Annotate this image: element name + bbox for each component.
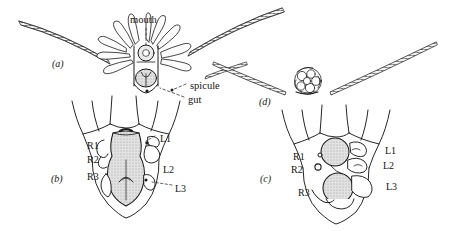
label-b-L1: L1 bbox=[160, 134, 171, 144]
panel-label-a: (a) bbox=[52, 59, 64, 69]
element-R1-c bbox=[318, 153, 322, 157]
element-L2-b bbox=[144, 146, 160, 164]
arch-b-left bbox=[83, 124, 110, 134]
outline-b-mid-right bbox=[136, 96, 139, 124]
retracted-cluster-d bbox=[295, 68, 322, 95]
outline-b-right-outer bbox=[159, 101, 180, 158]
leader-spicule bbox=[172, 84, 186, 90]
outline-b-right-inner bbox=[151, 101, 158, 131]
annotation-gut: gut bbox=[188, 95, 201, 106]
annotation-mouth: mouth bbox=[130, 15, 157, 26]
spicule-arm-left-d bbox=[213, 62, 286, 95]
label-b-R1: R1 bbox=[87, 141, 99, 151]
panel-label-b: (b) bbox=[51, 174, 63, 184]
element-R2-c bbox=[315, 164, 321, 170]
outline-c-left-inner bbox=[302, 110, 309, 140]
element-L2-c bbox=[348, 158, 367, 173]
outline-b-left-inner bbox=[92, 101, 99, 131]
label-b-L2: L2 bbox=[163, 165, 174, 175]
label-c-L1: L1 bbox=[385, 146, 396, 156]
annotation-spicule: spicule bbox=[190, 81, 220, 92]
panel-label-c: (c) bbox=[260, 174, 271, 184]
panel-label-d: (d) bbox=[259, 97, 271, 107]
element-R2-b bbox=[98, 157, 107, 168]
label-b-L3: L3 bbox=[175, 184, 186, 194]
outline-c-right-inner bbox=[361, 110, 368, 140]
label-c-R3: R3 bbox=[298, 188, 310, 198]
outline-c-mid-right bbox=[346, 105, 349, 133]
gut-lobe-upper-c bbox=[321, 138, 349, 166]
label-c-R1: R1 bbox=[293, 152, 305, 162]
label-c-L2: L2 bbox=[383, 161, 394, 171]
figure-canvas: mouth spicule gut (a) (b) (c) (d) R1 R2 … bbox=[0, 0, 451, 231]
outline-b-mid-left bbox=[110, 96, 112, 124]
panel-d-group bbox=[213, 42, 437, 95]
spicule-arm-right-d bbox=[330, 42, 437, 95]
label-b-R2: R2 bbox=[87, 155, 99, 165]
arch-b-top bbox=[110, 124, 139, 128]
diagram-artwork bbox=[0, 0, 451, 231]
spicule-arm-right-a bbox=[188, 8, 284, 56]
outline-c-mid-left bbox=[320, 105, 322, 133]
arch-c-top bbox=[320, 133, 349, 137]
label-c-R2: R2 bbox=[291, 165, 303, 175]
element-L3-c bbox=[352, 176, 372, 198]
label-c-L3: L3 bbox=[386, 182, 397, 192]
gut-lobe-lower-c bbox=[323, 173, 353, 203]
label-b-R3: R3 bbox=[87, 172, 99, 182]
